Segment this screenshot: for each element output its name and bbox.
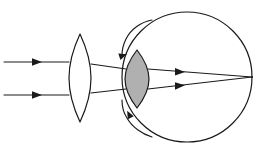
mid-ray-lower	[91, 89, 126, 93]
incoming-ray-lower-group	[4, 91, 69, 99]
optics-ray-diagram-canvas	[0, 0, 263, 154]
corrective-lens	[69, 34, 91, 122]
mid-ray-upper	[91, 64, 126, 69]
incoming-ray-upper-group	[4, 58, 69, 66]
retina-focal-point	[251, 76, 253, 78]
optics-diagram-figure	[0, 0, 263, 154]
incoming-ray-lower-arrowhead	[32, 91, 42, 99]
incoming-ray-upper-arrowhead	[32, 58, 42, 66]
